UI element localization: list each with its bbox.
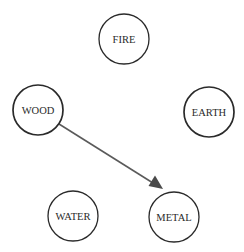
edge-wood-to-metal bbox=[59, 124, 163, 189]
node-wood[interactable]: WOOD bbox=[13, 85, 63, 135]
node-earth[interactable]: EARTH bbox=[184, 87, 234, 137]
node-water-label: WATER bbox=[56, 211, 91, 222]
node-earth-label: EARTH bbox=[192, 107, 227, 118]
node-fire-label: FIRE bbox=[113, 34, 136, 45]
node-water[interactable]: WATER bbox=[48, 191, 98, 241]
arrow-line bbox=[59, 124, 153, 183]
node-metal-label: METAL bbox=[156, 212, 191, 223]
node-metal[interactable]: METAL bbox=[149, 192, 199, 242]
node-fire[interactable]: FIRE bbox=[99, 14, 149, 64]
node-wood-label: WOOD bbox=[22, 105, 55, 116]
five-elements-diagram: FIRE WOOD EARTH WATER METAL bbox=[0, 0, 244, 252]
